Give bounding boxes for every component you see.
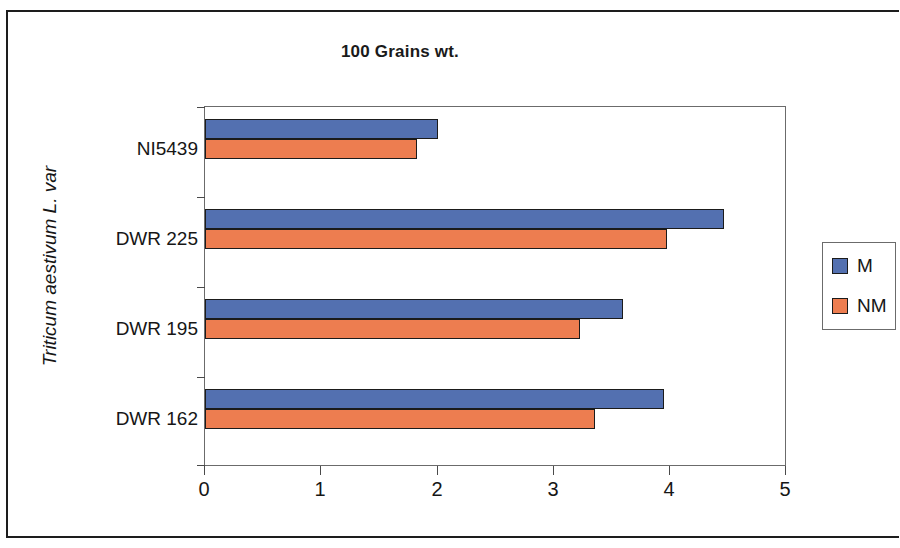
x-axis-label-5: 5 [765,478,805,501]
y-axis-category-labels: NI5439 DWR 225 DWR 195 DWR 162 [30,106,198,466]
x-axis-label-4: 4 [649,478,689,501]
bar-m-dwr162 [205,389,664,409]
x-axis-tick [553,466,554,475]
bar-group-dwr162 [205,377,785,467]
legend-item-m: M [832,255,873,277]
y-axis-tick [197,107,205,108]
legend-swatch-m [832,258,848,274]
legend-label-m: M [857,255,873,277]
bar-group-dwr225 [205,197,785,287]
legend-label-nm: NM [857,295,887,317]
bar-nm-dwr162 [205,409,595,429]
y-axis-tick [197,377,205,378]
y-axis-label-3: DWR 162 [38,408,198,430]
x-axis-tick [320,466,321,475]
chart-title: 100 Grains wt. [200,42,600,62]
legend-swatch-nm [832,298,848,314]
x-axis-label-3: 3 [533,478,573,501]
bar-m-dwr195 [205,299,623,319]
y-axis-label-1: DWR 225 [38,228,198,250]
y-axis-label-0: NI5439 [38,138,198,160]
x-axis: 0 1 2 3 4 5 [204,466,786,526]
bar-nm-dwr225 [205,229,667,249]
x-axis-label-2: 2 [417,478,457,501]
chart-legend: M NM [822,242,896,330]
bar-nm-ni5439 [205,139,417,159]
x-axis-label-0: 0 [184,478,224,501]
y-axis-tick [197,197,205,198]
x-axis-tick [669,466,670,475]
y-axis-tick [197,287,205,288]
chart-canvas: 100 Grains wt. Triticum aestivum L. var … [0,0,900,548]
legend-item-nm: NM [832,295,887,317]
bar-m-dwr225 [205,209,724,229]
bar-m-ni5439 [205,119,438,139]
y-axis-label-2: DWR 195 [38,318,198,340]
plot-area [204,106,786,466]
x-axis-tick [204,466,205,475]
bar-group-dwr195 [205,287,785,377]
bar-nm-dwr195 [205,319,580,339]
bar-group-ni5439 [205,107,785,197]
x-axis-tick [437,466,438,475]
x-axis-label-1: 1 [300,478,340,501]
x-axis-tick [785,466,786,475]
